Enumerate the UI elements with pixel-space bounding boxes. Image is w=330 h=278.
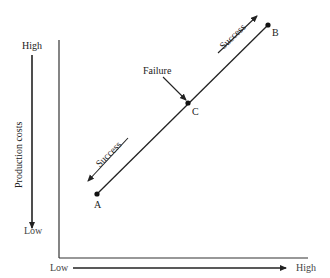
point-a-dot (94, 191, 99, 196)
y-axis-high-label: High (22, 41, 42, 51)
failure-arrow (163, 77, 186, 100)
point-b-label: B (272, 28, 279, 38)
point-b-dot (265, 22, 270, 27)
point-c-dot (185, 100, 190, 105)
y-axis-title: Production costs (14, 122, 24, 188)
diagonal-line (97, 25, 268, 194)
point-c-label: C (192, 107, 199, 117)
x-axis-high-label: High (296, 263, 316, 273)
point-a-label: A (94, 200, 101, 210)
diagram-canvas (0, 0, 330, 278)
failure-label: Failure (143, 66, 171, 76)
y-axis-low-label: Low (24, 226, 42, 236)
x-axis-low-label: Low (50, 263, 68, 273)
